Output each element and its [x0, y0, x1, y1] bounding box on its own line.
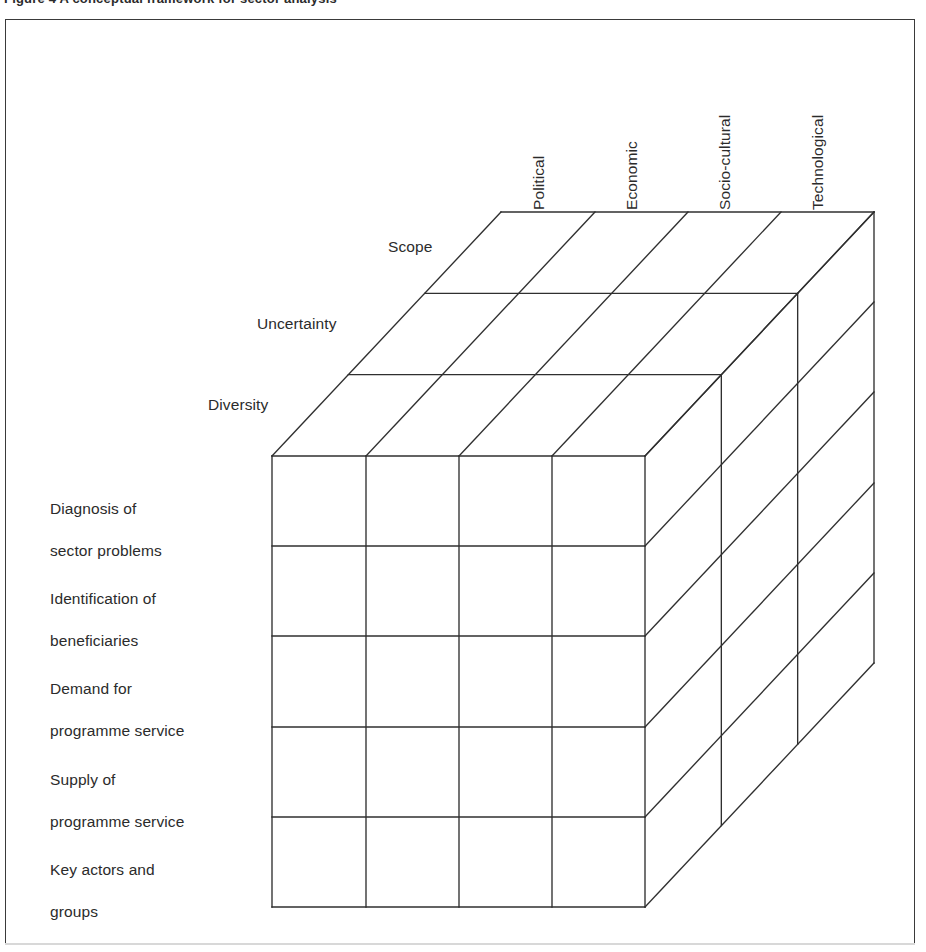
row-label-line1: Supply of [50, 771, 116, 788]
depth-label-diversity: Diversity [208, 396, 268, 414]
row-label-line2: sector problems [50, 542, 162, 559]
row-label-diagnosis: Diagnosis of sector problems [50, 477, 162, 561]
figure-caption: Figure 4 A conceptual framework for sect… [4, 0, 337, 6]
depth-label-uncertainty: Uncertainty [257, 315, 337, 333]
figure-frame-bottom-edge [5, 943, 915, 945]
row-label-line2: programme service [50, 813, 184, 830]
row-label-line1: Key actors and [50, 861, 155, 878]
figure-root: Figure 4 A conceptual framework for sect… [0, 0, 926, 952]
column-label-economic: Economic [623, 141, 641, 210]
row-label-identification: Identification of beneficiaries [50, 567, 156, 651]
row-label-line1: Diagnosis of [50, 500, 137, 517]
row-label-line2: beneficiaries [50, 632, 138, 649]
figure-caption-strip: Figure 4 A conceptual framework for sect… [0, 0, 926, 11]
column-label-technological: Technological [809, 115, 827, 210]
row-label-key-actors: Key actors and groups [50, 838, 155, 922]
depth-label-scope: Scope [388, 238, 432, 256]
column-label-socio-cultural: Socio-cultural [716, 115, 734, 210]
row-label-line1: Demand for [50, 680, 132, 697]
row-label-line1: Identification of [50, 590, 156, 607]
row-label-line2: groups [50, 903, 98, 920]
row-label-line2: programme service [50, 722, 184, 739]
row-label-demand: Demand for programme service [50, 657, 184, 741]
column-label-political: Political [530, 156, 548, 210]
row-label-supply: Supply of programme service [50, 748, 184, 832]
